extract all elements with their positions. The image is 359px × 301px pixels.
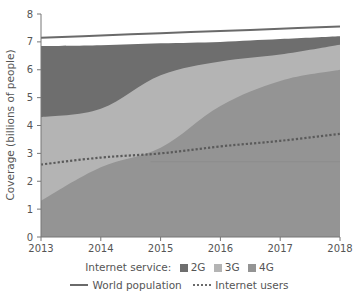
solid-line-icon — [70, 284, 88, 286]
x-tick-label: 2015 — [148, 243, 173, 254]
legend-lines: World population Internet users — [0, 279, 359, 291]
x-tick-label: 2016 — [208, 243, 233, 254]
x-tick-label: 2014 — [88, 243, 113, 254]
swatch-3g-icon — [214, 264, 222, 272]
y-tick-label: 6 — [27, 64, 33, 75]
legend-4g: 4G — [259, 261, 274, 273]
legend-internet-users: Internet users — [215, 279, 288, 291]
y-tick-label: 7 — [27, 36, 33, 47]
y-tick-label: 0 — [27, 232, 33, 243]
x-tick-label: 2013 — [28, 243, 53, 254]
swatch-4g-icon — [248, 264, 256, 272]
y-tick-label: 8 — [27, 9, 33, 20]
legend-world-population: World population — [92, 279, 181, 291]
y-tick-label: 2 — [27, 176, 33, 187]
y-tick-label: 4 — [27, 120, 33, 131]
swatch-2g-icon — [180, 264, 188, 272]
line-world-population — [41, 27, 340, 38]
y-tick-label: 1 — [27, 204, 33, 215]
legend-service-title: Internet service: — [85, 261, 171, 273]
y-tick-label: 3 — [27, 148, 33, 159]
legend-3g: 3G — [225, 261, 240, 273]
y-tick-label: 5 — [27, 92, 33, 103]
x-tick-label: 2017 — [267, 243, 292, 254]
x-tick-label: 2018 — [327, 243, 352, 254]
coverage-chart: 012345678201320142015201620172018 Covera… — [0, 0, 359, 301]
area-layers — [41, 36, 340, 237]
legend-service: Internet service: 2G 3G 4G — [0, 261, 359, 273]
legend-2g: 2G — [191, 261, 206, 273]
dotted-line-icon — [193, 284, 211, 286]
y-axis-title: Coverage (billions of people) — [4, 49, 16, 200]
